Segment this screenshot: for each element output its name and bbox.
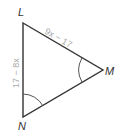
angle-arc-n — [23, 94, 43, 106]
vertex-label-l: L — [18, 6, 24, 18]
triangle-diagram: L M N 9x − 17 17 − 8x — [0, 0, 126, 132]
angle-arc-m — [79, 58, 82, 82]
vertex-label-m: M — [105, 65, 115, 77]
vertex-label-n: N — [18, 120, 26, 132]
side-label-ln: 17 − 8x — [11, 58, 21, 88]
